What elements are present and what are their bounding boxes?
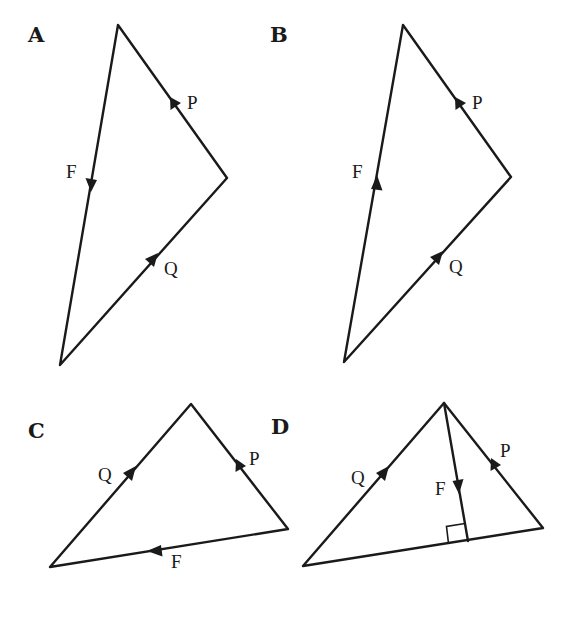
vector-label-q: Q <box>449 256 463 277</box>
option-c-diagram: C Q P F <box>28 404 288 572</box>
force-diagram-figure: A F P Q B F P Q C Q P F <box>0 0 573 617</box>
vector-label-f: F <box>435 478 446 499</box>
vector-label-p: P <box>249 448 260 469</box>
force-f-line <box>444 403 468 541</box>
arrow-f-icon <box>453 479 464 494</box>
vector-label-f: F <box>352 161 363 182</box>
option-b-label: B <box>270 22 288 47</box>
vector-label-q: Q <box>98 464 112 485</box>
arrow-f-icon <box>371 175 383 191</box>
option-b-diagram: B F P Q <box>270 22 511 362</box>
option-a-diagram: A F P Q <box>27 22 227 365</box>
vector-label-p: P <box>500 440 511 461</box>
vector-label-f: F <box>66 161 77 182</box>
vector-label-q: Q <box>164 258 178 279</box>
triangle-a <box>60 25 227 365</box>
arrow-f-icon <box>147 545 163 557</box>
vector-label-p: P <box>472 92 483 113</box>
arrow-f-icon <box>86 178 98 192</box>
arrow-p-icon <box>455 97 466 110</box>
vector-label-p: P <box>187 92 198 113</box>
option-a-label: A <box>27 22 45 47</box>
triangle-b <box>344 25 511 362</box>
option-d-label: D <box>271 414 289 439</box>
triangle-d <box>303 403 543 566</box>
option-d-diagram: D Q P F <box>271 403 543 566</box>
vector-label-f: F <box>171 551 182 572</box>
vector-label-q: Q <box>351 467 365 488</box>
option-c-label: C <box>28 418 45 443</box>
arrow-q-icon <box>145 253 158 267</box>
triangle-c <box>50 404 288 567</box>
arrow-p-icon <box>170 97 181 110</box>
